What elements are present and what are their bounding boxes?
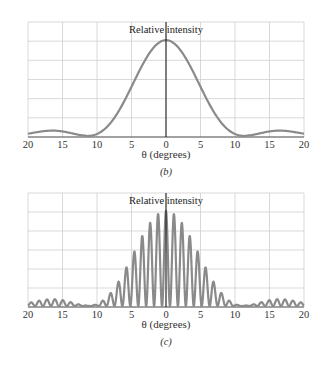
svg-text:5: 5: [198, 309, 203, 320]
svg-text:15: 15: [264, 139, 275, 150]
svg-text:15: 15: [57, 139, 68, 150]
svg-text:5: 5: [198, 139, 203, 150]
panel-c-caption: (c): [160, 336, 172, 348]
panel-c-y-axis-label: Relative intensity: [129, 195, 204, 206]
panel-c-x-axis-label: θ (degrees): [142, 318, 191, 331]
svg-text:20: 20: [23, 309, 34, 320]
diffraction-figure: Relative intensity 201510505101520 θ (de…: [0, 0, 325, 369]
svg-text:5: 5: [129, 309, 134, 320]
svg-text:10: 10: [92, 309, 103, 320]
svg-text:10: 10: [230, 139, 241, 150]
panel-b-single-slit-chart: Relative intensity 201510505101520 θ (de…: [23, 22, 310, 178]
svg-text:10: 10: [230, 309, 241, 320]
svg-text:20: 20: [23, 139, 34, 150]
svg-text:15: 15: [264, 309, 275, 320]
panel-b-x-axis-label: θ (degrees): [142, 148, 191, 161]
svg-text:15: 15: [57, 309, 68, 320]
panel-c-double-slit-chart: Relative intensity 201510505101520 θ (de…: [23, 193, 310, 348]
svg-text:20: 20: [299, 309, 310, 320]
panel-b-caption: (b): [160, 166, 173, 178]
svg-text:10: 10: [92, 139, 103, 150]
svg-text:5: 5: [129, 139, 134, 150]
svg-text:20: 20: [299, 139, 310, 150]
panel-b-y-axis-label: Relative intensity: [129, 24, 204, 35]
